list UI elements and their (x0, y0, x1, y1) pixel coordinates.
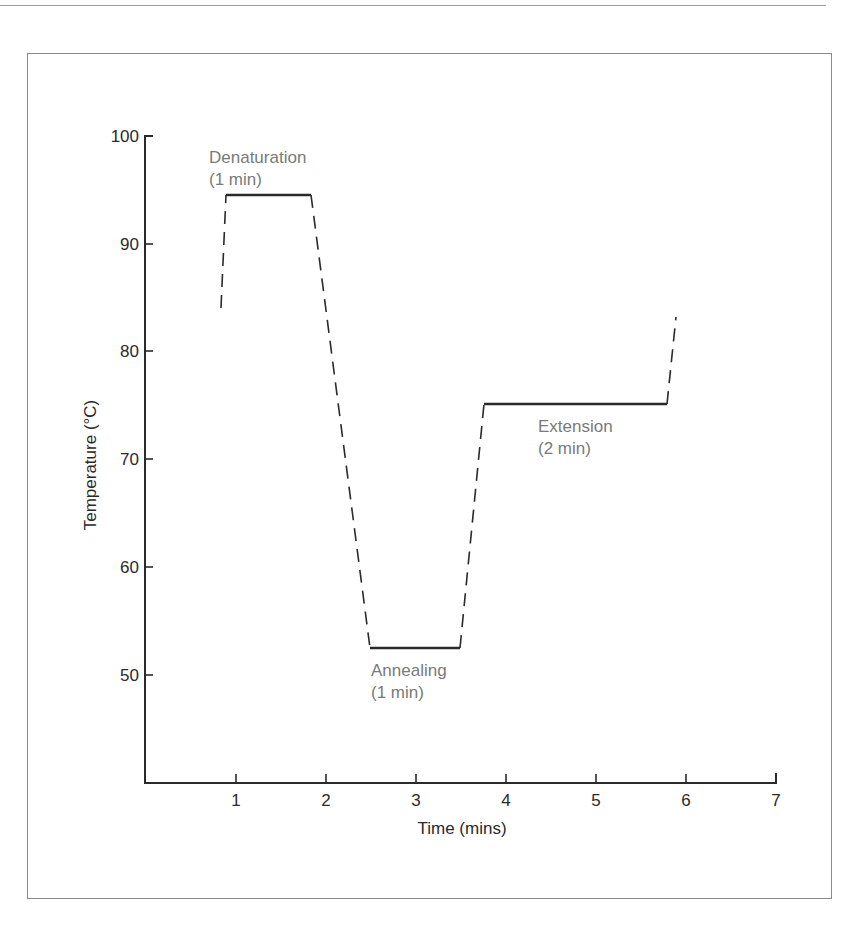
x-ticks (236, 774, 686, 783)
y-axis-title: Temperature (°C) (81, 400, 100, 531)
y-tick-label: 100 (111, 127, 139, 146)
ramp-up-to-denaturation (221, 195, 226, 308)
x-tick-label: 1 (231, 791, 240, 810)
y-tick-label: 80 (120, 342, 139, 361)
denaturation-label: Denaturation (209, 148, 306, 167)
y-tick-label: 60 (120, 558, 139, 577)
x-tick-label: 6 (681, 791, 690, 810)
x-tick-label: 5 (591, 791, 600, 810)
annealing-duration: (1 min) (371, 683, 424, 702)
extension-label: Extension (538, 417, 613, 436)
ramp-up-next-cycle (667, 317, 676, 404)
pcr-temperature-chart: 100 90 80 70 60 50 1 2 3 4 5 6 7 Time (m… (0, 0, 862, 942)
y-tick-label: 70 (120, 450, 139, 469)
x-tick-label: 4 (501, 791, 510, 810)
y-tick-label: 50 (120, 666, 139, 685)
annealing-label: Annealing (371, 661, 447, 680)
ramp-up-to-extension (460, 404, 484, 648)
y-tick-label: 90 (120, 235, 139, 254)
extension-duration: (2 min) (538, 439, 591, 458)
ramp-down-to-annealing (311, 195, 370, 648)
x-tick-label: 3 (411, 791, 420, 810)
x-tick-labels: 1 2 3 4 5 6 7 (231, 791, 780, 810)
x-tick-label: 2 (321, 791, 330, 810)
x-axis-title: Time (mins) (417, 819, 506, 838)
y-tick-labels: 100 90 80 70 60 50 (111, 127, 139, 685)
x-tick-label: 7 (771, 791, 780, 810)
y-axis (145, 136, 776, 783)
axes (145, 136, 776, 783)
annotations: Denaturation (1 min) Annealing (1 min) E… (209, 148, 613, 702)
y-ticks (145, 244, 153, 675)
denaturation-duration: (1 min) (209, 170, 262, 189)
